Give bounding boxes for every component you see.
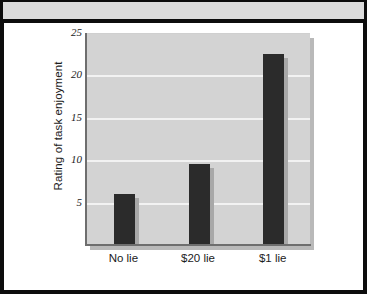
bar-1-lie	[263, 54, 284, 245]
y-axis-title: Rating of task enjoyment	[52, 26, 64, 226]
y-axis-line	[85, 33, 87, 246]
figure-root: 510152025 Rating of task enjoyment No li…	[0, 0, 367, 294]
x-tick-label: $1 lie	[235, 252, 310, 264]
x-axis-line	[85, 244, 311, 246]
bar-chart: 510152025 Rating of task enjoyment No li…	[0, 24, 367, 294]
bar-no-lie	[114, 194, 135, 245]
x-tick-label: $20 lie	[161, 252, 236, 264]
x-tick-label: No lie	[86, 252, 161, 264]
top-gray-band	[0, 0, 367, 19]
x-axis-ticks: No lie$20 lie$1 lie	[86, 252, 310, 274]
plot-area	[86, 33, 310, 245]
bar-20-lie	[189, 164, 210, 245]
